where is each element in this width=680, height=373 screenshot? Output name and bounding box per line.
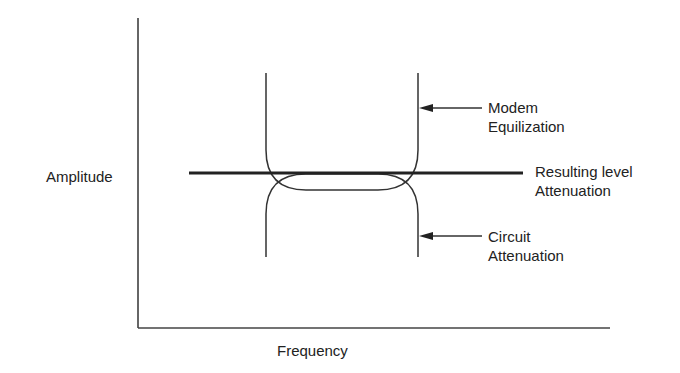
modem-label-line2: Equilization (488, 118, 565, 136)
circuit-arrowhead-icon (419, 232, 433, 240)
y-axis-label: Amplitude (46, 168, 113, 186)
resulting-label-line1: Resulting level (535, 163, 633, 181)
modem-label-line1: Modem (488, 99, 538, 117)
circuit-label-line1: Circuit (488, 228, 531, 246)
circuit-label-line2: Attenuation (488, 247, 564, 265)
circuit-attenuation-curve (266, 174, 418, 257)
x-axis-label: Frequency (277, 342, 348, 360)
resulting-label-line2: Attenuation (535, 182, 611, 200)
modem-arrowhead-icon (419, 104, 433, 112)
